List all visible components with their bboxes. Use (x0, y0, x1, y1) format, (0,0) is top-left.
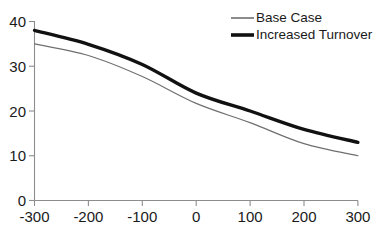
y-tick-label-20: 20 (9, 103, 26, 120)
y-tick-label-30: 30 (9, 58, 26, 75)
chart-figure: 40 30 20 10 0 -300 -200 -100 0 100 200 3… (0, 0, 388, 228)
x-tick-label-0: 0 (192, 208, 200, 225)
legend-label-increased-turnover: Increased Turnover (256, 27, 373, 42)
x-tick-label-minus300: -300 (19, 208, 49, 225)
line-chart: 40 30 20 10 0 -300 -200 -100 0 100 200 3… (0, 0, 388, 228)
y-tick-label-40: 40 (9, 13, 26, 30)
x-tick-label-300: 300 (345, 208, 370, 225)
y-tick-label-10: 10 (9, 147, 26, 164)
legend-label-base-case: Base Case (256, 10, 322, 25)
y-tick-label-0: 0 (18, 192, 26, 209)
x-tick-label-minus100: -100 (127, 208, 157, 225)
x-tick-label-100: 100 (238, 208, 263, 225)
x-tick-label-200: 200 (291, 208, 316, 225)
x-tick-label-minus200: -200 (73, 208, 103, 225)
